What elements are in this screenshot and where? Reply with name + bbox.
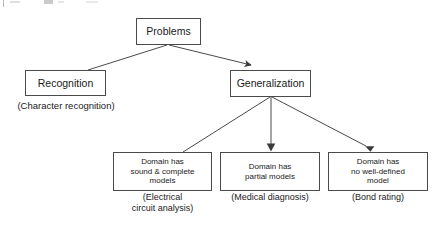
cropped-text-artifact xyxy=(0,0,444,7)
node-problems-label: Problems xyxy=(146,25,190,38)
caption-bond-rating: (Bond rating) xyxy=(328,192,428,203)
arrowhead-partial xyxy=(267,144,276,152)
node-partial-models[interactable]: Domain has partial models xyxy=(220,152,320,191)
edge-generalization-to-no-model xyxy=(272,97,366,146)
node-generalization[interactable]: Generalization xyxy=(230,70,311,97)
caption-electrical-circuit-analysis: (Electrical circuit analysis) xyxy=(113,192,212,215)
arrowhead-no-model xyxy=(365,146,374,152)
node-problems[interactable]: Problems xyxy=(136,18,201,45)
problem-classification-diagram: Problems Recognition Generalization Doma… xyxy=(0,0,444,229)
node-no-well-defined-model[interactable]: Domain has no well-defined model xyxy=(328,152,428,191)
node-recognition[interactable]: Recognition xyxy=(25,70,106,96)
caption-character-recognition: (Character recognition) xyxy=(4,100,128,112)
caption-medical-diagnosis: (Medical diagnosis) xyxy=(216,192,324,203)
node-recognition-label: Recognition xyxy=(38,77,93,90)
node-partial-models-label: Domain has partial models xyxy=(245,162,295,182)
edge-generalization-to-sound-complete xyxy=(183,97,270,152)
node-sound-complete-models-label: Domain has sound & complete models xyxy=(130,157,194,186)
node-no-well-defined-model-label: Domain has no well-defined model xyxy=(351,157,405,186)
node-generalization-label: Generalization xyxy=(237,77,305,90)
node-sound-complete-models[interactable]: Domain has sound & complete models xyxy=(113,152,212,191)
edge-problems-to-generalization xyxy=(169,45,251,65)
edge-problems-to-recognition xyxy=(88,45,167,70)
